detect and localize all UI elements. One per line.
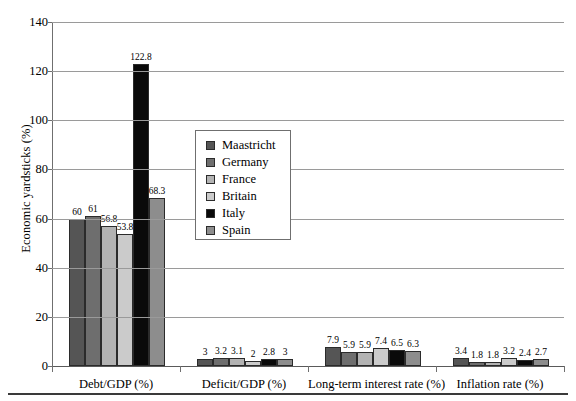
bar-value-label: 6.3 bbox=[399, 340, 427, 350]
legend-label: Italy bbox=[222, 207, 245, 220]
plot-area: 606156.853.8122.868.333.23.122.837.95.95… bbox=[52, 22, 564, 366]
gridline bbox=[52, 169, 564, 170]
y-tick-mark bbox=[48, 120, 52, 121]
legend-swatch-icon bbox=[206, 158, 215, 167]
legend-swatch-icon bbox=[206, 209, 215, 218]
x-tick-mark bbox=[52, 366, 53, 372]
y-tick-label: 0 bbox=[2, 360, 48, 373]
legend-label: France bbox=[222, 173, 256, 186]
legend-item: Germany bbox=[206, 154, 290, 170]
bar-value-label: 68.3 bbox=[143, 187, 171, 197]
legend-item: Britain bbox=[206, 188, 290, 204]
gridline bbox=[52, 268, 564, 269]
gridline bbox=[52, 219, 564, 220]
legend-swatch-icon bbox=[206, 175, 215, 184]
legend-item: France bbox=[206, 171, 290, 187]
y-tick-label: 140 bbox=[2, 16, 48, 29]
bar bbox=[277, 359, 293, 366]
bottom-rule bbox=[8, 393, 568, 395]
bar bbox=[213, 358, 229, 366]
y-tick-label: 40 bbox=[2, 262, 48, 275]
legend-swatch-icon bbox=[206, 141, 215, 150]
bar-value-label: 3 bbox=[271, 348, 299, 358]
x-axis-label: Deficit/GDP (%) bbox=[180, 377, 308, 392]
bar bbox=[341, 352, 357, 366]
bar bbox=[261, 359, 277, 366]
legend-item: Maastricht bbox=[206, 137, 290, 153]
legend-label: Germany bbox=[222, 156, 269, 169]
y-tick-mark bbox=[48, 22, 52, 23]
legend-swatch-icon bbox=[206, 192, 215, 201]
y-tick-label: 60 bbox=[2, 213, 48, 226]
bar-value-label: 2.7 bbox=[527, 348, 555, 358]
bar bbox=[117, 234, 133, 366]
y-tick-mark bbox=[48, 169, 52, 170]
legend-item: Spain bbox=[206, 222, 290, 238]
y-tick-label: 100 bbox=[2, 114, 48, 127]
x-tick-mark bbox=[180, 366, 181, 372]
legend-swatch-icon bbox=[206, 226, 215, 235]
y-tick-label: 20 bbox=[2, 311, 48, 324]
y-tick-label: 80 bbox=[2, 163, 48, 176]
x-axis-label: Long-term interest rate (%) bbox=[308, 377, 436, 392]
bar bbox=[373, 348, 389, 366]
gridline bbox=[52, 120, 564, 121]
y-tick-mark bbox=[48, 219, 52, 220]
bar bbox=[133, 64, 149, 366]
bar bbox=[389, 350, 405, 366]
bar bbox=[101, 226, 117, 366]
y-tick-mark bbox=[48, 71, 52, 72]
gridline bbox=[52, 22, 564, 23]
x-axis-label: Debt/GDP (%) bbox=[52, 377, 180, 392]
bar-value-label: 122.8 bbox=[127, 53, 155, 63]
bar bbox=[85, 216, 101, 366]
legend-label: Spain bbox=[222, 224, 250, 237]
x-tick-mark bbox=[436, 366, 437, 372]
bar-value-label: 61 bbox=[79, 205, 107, 215]
y-tick-mark bbox=[48, 317, 52, 318]
bar bbox=[533, 359, 549, 366]
legend-label: Maastricht bbox=[222, 139, 275, 152]
chart-legend: MaastrichtGermanyFranceBritainItalySpain bbox=[195, 130, 291, 240]
legend-item: Italy bbox=[206, 205, 290, 221]
x-tick-mark bbox=[308, 366, 309, 372]
gridline bbox=[52, 71, 564, 72]
legend-label: Britain bbox=[222, 190, 257, 203]
y-tick-mark bbox=[48, 268, 52, 269]
bar bbox=[405, 351, 421, 366]
y-tick-label: 120 bbox=[2, 65, 48, 78]
bars-layer: 606156.853.8122.868.333.23.122.837.95.95… bbox=[53, 23, 564, 366]
x-axis-label: Inflation rate (%) bbox=[436, 377, 564, 392]
chart-figure: Economic yardsticks (%) 606156.853.8122.… bbox=[0, 0, 576, 401]
bar bbox=[197, 359, 213, 366]
gridline bbox=[52, 317, 564, 318]
x-tick-mark bbox=[564, 366, 565, 372]
bar bbox=[501, 358, 517, 366]
bar bbox=[69, 219, 85, 366]
bar bbox=[149, 198, 165, 366]
bar bbox=[357, 352, 373, 366]
